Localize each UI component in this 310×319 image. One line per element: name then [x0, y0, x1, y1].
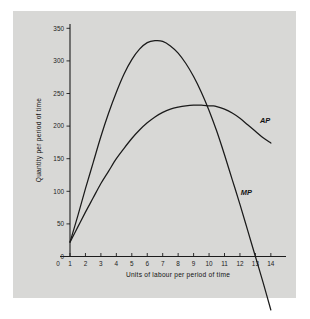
x-tick-label-1: 1: [68, 260, 72, 267]
y-tick-label-150: 150: [53, 155, 64, 162]
y-tick-label-50: 50: [57, 220, 65, 227]
y-axis-title: Quantity per period of time: [35, 98, 43, 183]
mp-curve: [70, 41, 271, 310]
y-tick-label-250: 250: [53, 90, 64, 97]
y-tick-label-200: 200: [53, 122, 64, 129]
y-axis-tick-labels: 050100150200250300350: [53, 25, 64, 260]
x-tick-label-2: 2: [84, 260, 88, 267]
ap-curve: [70, 105, 271, 242]
x-tick-label-5: 5: [130, 260, 134, 267]
y-tick-label-300: 300: [53, 57, 64, 64]
x-axis-title: Units of labour per period of time: [126, 271, 230, 279]
y-tick-label-350: 350: [53, 25, 64, 32]
x-tick-label-7: 7: [161, 260, 165, 267]
x-tick-label-10: 10: [205, 260, 213, 267]
x-tick-label-12: 12: [236, 260, 244, 267]
curve-labels-group: APMP: [241, 116, 271, 197]
product-curves-chart: 050100150200250300350 123456789101112131…: [0, 0, 310, 319]
x-tick-label-8: 8: [176, 260, 180, 267]
x-tick-label-11: 11: [221, 260, 228, 267]
x-tick-label-14: 14: [267, 260, 275, 267]
origin-tick-label: 0: [56, 260, 60, 267]
x-tick-label-9: 9: [192, 260, 196, 267]
y-tick-label-100: 100: [53, 188, 64, 195]
x-tick-label-3: 3: [99, 260, 103, 267]
y-tick-label-0: 0: [60, 253, 64, 260]
x-tick-label-4: 4: [115, 260, 119, 267]
x-tick-label-6: 6: [145, 260, 149, 267]
curve-label-ap: AP: [259, 116, 270, 125]
figure-container: 050100150200250300350 123456789101112131…: [0, 0, 310, 319]
curve-label-mp: MP: [241, 188, 252, 197]
x-axis-tick-labels: 1234567891011121314: [68, 260, 275, 267]
